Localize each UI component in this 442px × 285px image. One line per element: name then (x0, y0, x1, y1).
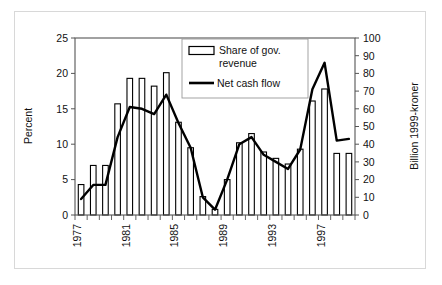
left-tick-label-10: 10 (56, 138, 68, 150)
legend-label-bar-line1: Share of gov. (219, 44, 281, 56)
right-axis-title: Billion 1999-kroner (408, 82, 420, 170)
right-tick-label-20: 20 (363, 173, 375, 185)
right-tick-label-100: 100 (363, 32, 381, 44)
x-tick-label-1985: 1985 (168, 224, 180, 248)
bar-1993 (273, 158, 279, 215)
right-tick-label-0: 0 (363, 209, 369, 221)
bar-1995 (297, 149, 303, 215)
bar-1978 (90, 165, 96, 215)
right-tick-label-90: 90 (363, 50, 375, 62)
right-tick-label-30: 30 (363, 156, 375, 168)
left-tick-label-25: 25 (56, 32, 68, 44)
bar-1992 (261, 152, 267, 215)
left-axis-ticks: 0510152025 (56, 32, 75, 221)
right-tick-label-10: 10 (363, 191, 375, 203)
bar-1997 (322, 89, 328, 215)
chart-figure: 0510152025 0102030405060708090100 197719… (0, 0, 442, 285)
bar-1990 (237, 143, 243, 215)
right-tick-label-40: 40 (363, 138, 375, 150)
right-tick-label-50: 50 (363, 120, 375, 132)
bar-1983 (151, 86, 157, 215)
right-tick-label-60: 60 (363, 103, 375, 115)
chart-canvas: 0510152025 0102030405060708090100 197719… (0, 0, 442, 285)
bar-1980 (115, 104, 121, 215)
right-tick-label-70: 70 (363, 85, 375, 97)
x-axis-tick-labels: 197719811985198919931997 (71, 224, 326, 248)
x-tick-label-1989: 1989 (217, 224, 229, 248)
right-tick-label-80: 80 (363, 67, 375, 79)
legend-swatch-bar (189, 47, 214, 55)
bar-1985 (176, 122, 182, 215)
bar-1981 (127, 78, 133, 215)
x-axis-ticks (75, 215, 355, 220)
x-tick-label-1977: 1977 (71, 224, 83, 248)
left-axis-title: Percent (22, 108, 34, 144)
bar-1991 (249, 134, 255, 215)
left-tick-label-0: 0 (62, 209, 68, 221)
x-tick-label-1981: 1981 (120, 224, 132, 248)
bar-1982 (139, 78, 145, 215)
bar-1994 (285, 164, 291, 215)
bar-1999 (346, 153, 352, 215)
legend-label-bar-line2: revenue (219, 57, 257, 69)
left-tick-label-5: 5 (62, 173, 68, 185)
bar-1998 (334, 153, 340, 215)
x-tick-label-1997: 1997 (315, 224, 327, 248)
chart-legend: Share of gov. revenue Net cash flow (182, 39, 308, 98)
left-tick-label-20: 20 (56, 67, 68, 79)
left-tick-label-15: 15 (56, 103, 68, 115)
legend-label-line: Net cash flow (217, 77, 280, 89)
x-tick-label-1993: 1993 (266, 224, 278, 248)
right-axis-ticks: 0102030405060708090100 (355, 32, 381, 221)
bar-1996 (310, 101, 316, 215)
